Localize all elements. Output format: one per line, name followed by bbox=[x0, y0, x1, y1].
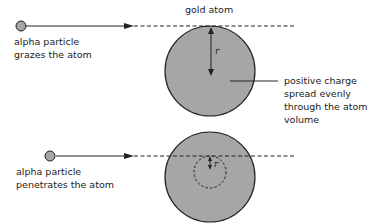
rutherford-scattering-diagram: r r gold atom alpha particle grazes the … bbox=[0, 0, 369, 224]
annotation-line1: positive charge bbox=[284, 75, 357, 87]
bottom-alpha-particle bbox=[45, 151, 55, 161]
annotation-line4: volume bbox=[284, 114, 319, 126]
bottom-gold-atom bbox=[165, 132, 255, 222]
annotation-line3: through the atom bbox=[284, 101, 368, 113]
top-alpha-particle bbox=[16, 21, 26, 31]
top-arrowhead-icon bbox=[124, 23, 134, 29]
bottom-radius-label: r bbox=[214, 159, 219, 169]
top-particle-label-line2: grazes the atom bbox=[14, 49, 92, 61]
top-radius-label: r bbox=[215, 46, 220, 56]
top-particle-label-line1: alpha particle bbox=[14, 36, 79, 48]
bottom-arrowhead-icon bbox=[124, 153, 134, 159]
bottom-particle-label-line1: alpha particle bbox=[16, 166, 81, 178]
gold-atom-label: gold atom bbox=[185, 4, 233, 16]
bottom-particle-label-line2: penetrates the atom bbox=[16, 179, 114, 191]
annotation-line2: spread evenly bbox=[284, 88, 351, 100]
